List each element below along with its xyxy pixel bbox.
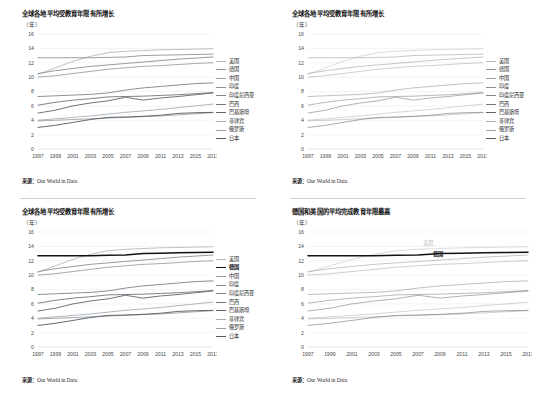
legend-item-2[interactable]: 中国 — [216, 272, 254, 281]
svg-text:2009: 2009 — [137, 153, 149, 159]
svg-text:2013: 2013 — [478, 351, 490, 357]
svg-text:10: 10 — [298, 272, 304, 278]
svg-text:2017: 2017 — [477, 153, 487, 159]
legend-swatch-icon — [486, 87, 496, 88]
legend-item-6[interactable]: 巴基斯坦 — [216, 307, 254, 316]
chart-unit-top-left: （年） — [23, 21, 41, 29]
legend-item-7[interactable]: 菲律宾 — [486, 117, 524, 126]
svg-text:4: 4 — [31, 315, 34, 321]
svg-text:14: 14 — [298, 243, 304, 249]
legend-swatch-icon — [216, 310, 226, 311]
svg-text:12: 12 — [28, 60, 34, 66]
legend-swatch-icon — [486, 78, 496, 79]
legend-swatch-icon — [216, 293, 226, 294]
legend-item-2[interactable]: 中国 — [486, 74, 524, 83]
svg-text:2011: 2011 — [155, 351, 166, 357]
inline-label-germany: 德国 — [433, 250, 443, 257]
legend-item-2[interactable]: 中国 — [216, 74, 254, 83]
legend-swatch-icon — [216, 69, 226, 70]
legend-item-8[interactable]: 俄罗斯 — [216, 324, 254, 333]
legend-item-7[interactable]: 菲律宾 — [216, 117, 254, 126]
svg-text:2007: 2007 — [412, 351, 424, 357]
legend-swatch-icon — [216, 61, 226, 62]
svg-text:2017: 2017 — [207, 153, 217, 159]
legend-item-1[interactable]: 德国 — [486, 66, 524, 75]
svg-text:0: 0 — [31, 146, 34, 152]
chart-source-bottom-left: 来源：Our World in Data — [22, 376, 77, 383]
legend-item-5[interactable]: 巴西 — [216, 100, 254, 109]
legend-item-3[interactable]: 印度 — [216, 281, 254, 290]
svg-text:2015: 2015 — [500, 351, 512, 357]
legend-label: 印度 — [229, 84, 239, 89]
svg-text:2013: 2013 — [442, 153, 454, 159]
legend-swatch-icon — [486, 112, 496, 113]
legend-item-0[interactable]: 美国 — [216, 255, 254, 264]
legend-item-7[interactable]: 菲律宾 — [216, 315, 254, 324]
legend-item-9[interactable]: 日本 — [486, 134, 524, 143]
legend-item-3[interactable]: 印度 — [486, 83, 524, 92]
chart-panel-bottom-right: 德国和美国的平均完成教育年限最高 （年） 1614121086420199719… — [270, 198, 540, 397]
plot-area-bottom-left: 1614121086420199719992001200320052007200… — [22, 228, 217, 363]
legend-item-9[interactable]: 日本 — [216, 134, 254, 143]
legend-item-5[interactable]: 巴西 — [486, 100, 524, 109]
svg-text:2001: 2001 — [346, 351, 358, 357]
svg-text:10: 10 — [298, 74, 304, 80]
svg-text:1999: 1999 — [320, 153, 332, 159]
legend-item-9[interactable]: 日本 — [216, 332, 254, 341]
legend-top-right: 美国德国中国印度印度尼西亚巴西巴基斯坦菲律宾俄罗斯日本 — [486, 57, 524, 143]
svg-text:2007: 2007 — [390, 153, 402, 159]
legend-swatch-icon — [216, 138, 226, 139]
legend-item-3[interactable]: 印度 — [216, 83, 254, 92]
legend-item-4[interactable]: 印度尼西亚 — [216, 91, 254, 100]
svg-text:16: 16 — [28, 229, 34, 235]
legend-label: 中国 — [229, 76, 239, 81]
legend-label: 日本 — [229, 334, 239, 339]
svg-text:2011: 2011 — [425, 153, 436, 159]
chart-title-top-left: 全球各地平均受教育年限有所增长 — [22, 9, 114, 18]
legend-item-6[interactable]: 巴基斯坦 — [486, 109, 524, 118]
legend-item-1[interactable]: 德国 — [216, 264, 254, 273]
svg-text:1997: 1997 — [32, 351, 44, 357]
legend-label: 德国 — [229, 265, 239, 270]
chart-panel-bottom-left: 全球各地平均受教育年限有所增长 （年） 16141210864201997199… — [0, 198, 270, 397]
legend-swatch-icon — [486, 121, 496, 122]
svg-text:2: 2 — [301, 330, 304, 336]
source-text: Our World in Data — [37, 377, 77, 383]
line-chart-svg-bottom-left: 1614121086420199719992001200320052007200… — [22, 228, 217, 363]
legend-item-8[interactable]: 俄罗斯 — [486, 126, 524, 135]
svg-text:2005: 2005 — [102, 153, 114, 159]
legend-swatch-icon — [486, 138, 496, 139]
source-label: 来源： — [292, 377, 307, 383]
legend-swatch-icon — [216, 302, 226, 303]
source-text: Our World in Data — [37, 178, 77, 184]
legend-swatch-icon — [216, 319, 226, 320]
legend-item-5[interactable]: 巴西 — [216, 298, 254, 307]
legend-label: 印度尼西亚 — [499, 93, 524, 98]
legend-swatch-icon — [216, 121, 226, 122]
legend-label: 美国 — [229, 59, 239, 64]
legend-label: 德国 — [499, 67, 509, 72]
legend-item-0[interactable]: 美国 — [486, 57, 524, 66]
line-chart-svg-top-right: 1614121086420199719992001200320052007200… — [292, 30, 487, 165]
legend-label: 巴西 — [229, 102, 239, 107]
chart-source-bottom-right: 来源：Our World in Data — [292, 376, 347, 383]
legend-swatch-icon — [216, 104, 226, 105]
legend-item-4[interactable]: 印度尼西亚 — [486, 91, 524, 100]
svg-text:1999: 1999 — [324, 351, 336, 357]
svg-text:0: 0 — [301, 146, 304, 152]
legend-swatch-icon — [216, 276, 226, 277]
legend-swatch-icon — [216, 78, 226, 79]
svg-text:14: 14 — [28, 243, 34, 249]
legend-item-4[interactable]: 印度尼西亚 — [216, 289, 254, 298]
legend-label: 俄罗斯 — [229, 325, 244, 330]
svg-text:2001: 2001 — [67, 153, 79, 159]
legend-item-0[interactable]: 美国 — [216, 57, 254, 66]
svg-text:8: 8 — [301, 88, 304, 94]
svg-text:4: 4 — [301, 315, 304, 321]
legend-item-1[interactable]: 德国 — [216, 66, 254, 75]
legend-item-8[interactable]: 俄罗斯 — [216, 126, 254, 135]
legend-item-6[interactable]: 巴基斯坦 — [216, 109, 254, 118]
chart-unit-top-right: （年） — [293, 21, 311, 29]
svg-text:16: 16 — [28, 31, 34, 37]
legend-label: 菲律宾 — [229, 317, 244, 322]
